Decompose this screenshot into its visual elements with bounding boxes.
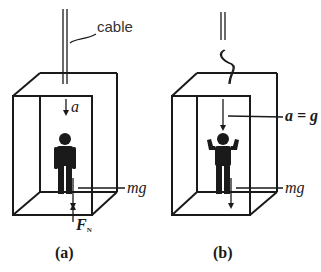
caption-b: (b): [213, 244, 233, 262]
panel-b: a = g mg (b): [172, 12, 318, 262]
normal-force-subscript: N: [87, 226, 92, 234]
cable-leader-line: [70, 34, 96, 43]
panel-a: cable a mg: [13, 9, 147, 262]
elevator-diagram: cable a mg: [0, 0, 321, 272]
acceleration-label: a = g: [285, 107, 318, 125]
acceleration-label: a: [71, 98, 79, 115]
caption-a: (a): [55, 244, 74, 262]
person-icon: [207, 133, 239, 194]
weight-label: mg: [285, 179, 305, 197]
acceleration-leader-line: [228, 116, 283, 117]
weight-label: mg: [127, 179, 147, 197]
normal-force-symbol: F: [75, 216, 87, 233]
normal-force-label: FN: [75, 216, 92, 234]
cable-label: cable: [97, 18, 133, 35]
